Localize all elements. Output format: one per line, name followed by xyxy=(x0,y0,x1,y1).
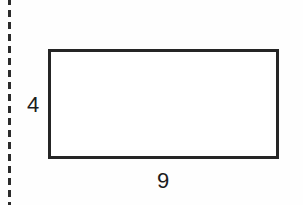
height-dimension-label: 4 xyxy=(23,94,43,116)
dashed-cut-line xyxy=(8,0,11,205)
rectangle-shape xyxy=(48,49,279,159)
width-dimension-label: 9 xyxy=(143,170,183,192)
figure-canvas: 4 9 xyxy=(0,0,303,205)
